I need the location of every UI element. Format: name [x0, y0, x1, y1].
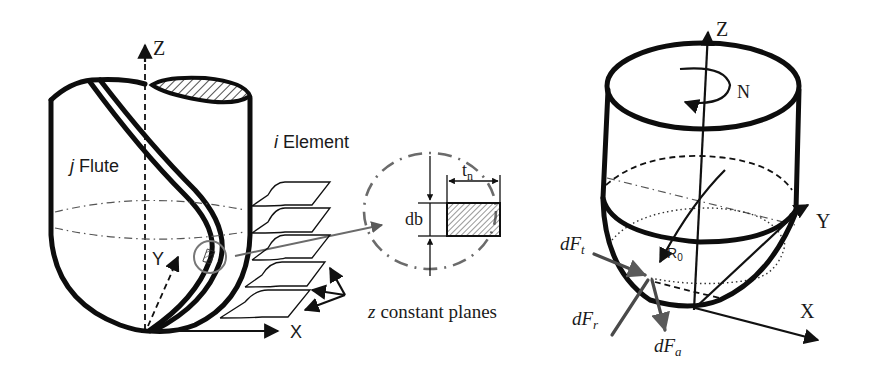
y-axis-label: Y	[152, 249, 164, 269]
z-axis-label: Z	[153, 37, 165, 59]
right-panel: Z N Y X R0 dFt dFr	[560, 18, 830, 359]
z-constant-planes	[220, 182, 330, 318]
db-label: db	[405, 209, 423, 229]
z-axis-label-right: Z	[716, 18, 728, 40]
plane-2	[252, 208, 330, 233]
rotation-label: N	[737, 82, 750, 102]
flute-helix-outer	[90, 82, 212, 330]
plane-4	[245, 262, 325, 287]
y-axis-arrow	[172, 257, 178, 270]
x-axis-label: X	[290, 322, 302, 342]
y-axis-arrow-right	[790, 205, 808, 215]
detail-inset: tn db	[364, 153, 500, 276]
section-ellipse-front	[55, 228, 245, 239]
element-label: iElement	[274, 132, 349, 152]
body-left-outline	[51, 100, 150, 331]
plane-1	[252, 182, 330, 206]
contact-dashed	[655, 282, 720, 298]
z-axis-right	[694, 32, 708, 310]
x-axis-label-right: X	[800, 300, 815, 322]
plane-pointer-1	[330, 268, 345, 295]
plane-pointer-3	[305, 295, 345, 310]
planes-label: zconstant planes	[367, 301, 497, 322]
radial-force-line	[612, 280, 648, 335]
element-hatched	[203, 249, 215, 264]
planes-pointer-arrows	[305, 268, 345, 310]
radial-force-label: dFr	[572, 308, 599, 332]
diagram-canvas: Z Y X jFlute iElement	[0, 0, 871, 378]
chip-element-rect	[447, 203, 500, 236]
y-axis-diagonal	[695, 210, 800, 308]
cyl-left-side	[603, 90, 608, 198]
section-ellipse-back	[55, 200, 245, 212]
cyl-right-side	[796, 90, 799, 210]
flute-label: jFlute	[67, 156, 119, 176]
radius-label: R0	[667, 245, 683, 263]
tangential-force-label: dFt	[560, 233, 585, 257]
y-axis-label-right: Y	[816, 210, 830, 232]
top-cap-hatched	[152, 78, 250, 103]
back-dashed-ellipse	[606, 156, 792, 190]
axial-force-label: dFa	[654, 335, 682, 359]
plane-pointer-2	[312, 290, 345, 295]
